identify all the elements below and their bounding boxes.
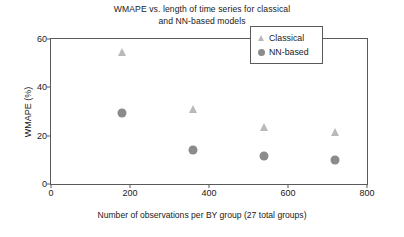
y-tick-mark [47,87,51,88]
chart-legend: Classical NN-based [250,26,323,64]
y-axis-label-container: WMAPE (%) [0,38,20,185]
y-tick-label: 40 [37,82,47,92]
data-point-nn-based [331,155,340,164]
y-tick-label: 60 [37,34,47,44]
y-tick-mark [47,135,51,136]
chart-title-line-1: WMAPE vs. length of time series for clas… [0,4,404,16]
legend-entry-nn-based: NN-based [255,45,317,59]
y-tick-label: 0 [42,179,47,189]
circle-marker-icon [255,49,267,56]
chart-figure: WMAPE vs. length of time series for clas… [0,0,404,237]
triangle-marker-icon [255,35,267,41]
data-point-nn-based [260,152,269,161]
data-point-nn-based [189,146,198,155]
x-tick-label: 800 [359,188,374,198]
x-tick-label: 600 [280,188,295,198]
y-tick-mark [47,39,51,40]
data-point-classical [260,123,268,131]
x-tick-label: 200 [122,188,137,198]
x-axis-label: Number of observations per BY group (27 … [0,210,404,220]
legend-entry-classical: Classical [255,31,317,45]
chart-title: WMAPE vs. length of time series for clas… [0,4,404,27]
data-point-classical [331,128,339,136]
data-point-classical [189,105,197,113]
legend-label-classical: Classical [269,33,304,43]
data-point-classical [118,48,126,56]
chart-title-line-2: and NN-based models [0,16,404,28]
y-tick-label: 20 [37,131,47,141]
y-axis-label: WMAPE (%) [23,86,33,137]
x-tick-label: 400 [201,188,216,198]
legend-label-nn-based: NN-based [269,47,309,57]
data-point-nn-based [118,108,127,117]
x-tick-label: 0 [48,188,53,198]
